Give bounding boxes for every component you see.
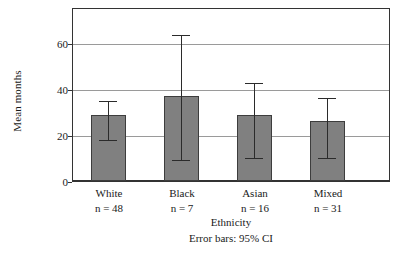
y-tick-label-60: 60: [40, 39, 68, 50]
errorbar-cap-upper-mixed: [318, 98, 336, 99]
error-bars-note: Error bars: 95% CI: [72, 232, 390, 244]
y-tick-label-0: 0: [40, 177, 68, 188]
category-label-black: Black: [141, 186, 223, 201]
errorbar-stem-white: [108, 102, 109, 141]
category-n-white: n = 48: [68, 201, 150, 216]
x-axis-title: Ethnicity: [72, 216, 390, 228]
errorbar-cap-upper-asian: [245, 83, 263, 84]
bars-layer: [72, 8, 390, 182]
category-n-asian: n = 16: [214, 201, 296, 216]
errorbar-cap-upper-black: [172, 35, 190, 36]
y-axis-title: Mean months: [11, 46, 23, 156]
category-n-black: n = 7: [141, 201, 223, 216]
errorbar-stem-black: [181, 36, 182, 161]
y-tick-label-20: 20: [40, 131, 68, 142]
category-n-mixed: n = 31: [287, 201, 369, 216]
category-label-asian: Asian: [214, 186, 296, 201]
category-label-white: White: [68, 186, 150, 201]
errorbar-stem-mixed: [327, 99, 328, 159]
errorbar-cap-lower-mixed: [318, 158, 336, 159]
errorbar-cap-upper-white: [99, 101, 117, 102]
bar-chart-figure: Mean months 0 20 40 60: [0, 0, 399, 258]
errorbar-cap-lower-asian: [245, 158, 263, 159]
y-tick-label-40: 40: [40, 85, 68, 96]
errorbar-cap-lower-black: [172, 160, 190, 161]
errorbar-stem-asian: [254, 84, 255, 159]
y-tick-mark-0: [68, 182, 72, 183]
errorbar-cap-lower-white: [99, 140, 117, 141]
category-label-mixed: Mixed: [287, 186, 369, 201]
